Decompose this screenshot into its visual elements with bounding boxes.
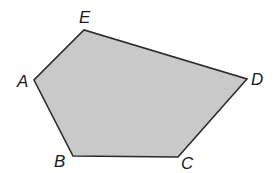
vertex-label-a: A	[16, 72, 28, 91]
vertex-label-d: D	[251, 70, 263, 89]
vertex-label-b: B	[54, 152, 65, 171]
pentagon-abcde	[34, 30, 247, 157]
vertex-label-e: E	[79, 8, 91, 27]
pentagon-diagram: A B C D E	[0, 0, 280, 173]
vertex-label-c: C	[181, 154, 194, 173]
